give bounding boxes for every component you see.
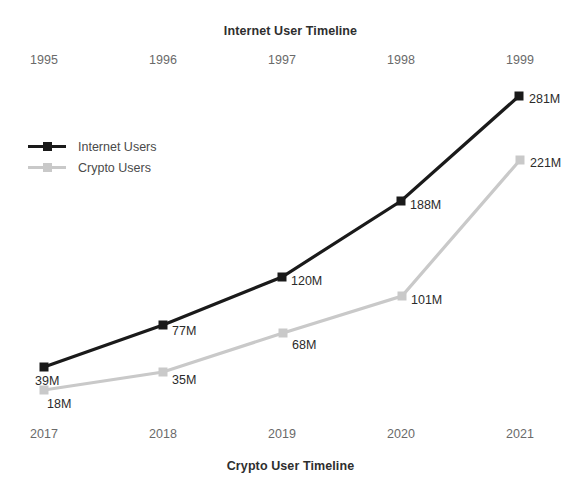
- chart-canvas: Internet User Timeline 1995 1996 1997 19…: [0, 0, 581, 490]
- data-label-internet-users: 188M: [410, 198, 441, 212]
- data-label-crypto-users: 101M: [411, 293, 442, 307]
- data-label-crypto-users: 221M: [530, 156, 561, 170]
- bottom-axis-tick: 2021: [506, 427, 534, 441]
- data-point-marker: [515, 92, 524, 101]
- chart-legend: Internet Users Crypto Users: [28, 136, 208, 178]
- data-point-marker: [397, 197, 406, 206]
- data-label-internet-users: 120M: [291, 274, 322, 288]
- data-label-internet-users: 39M: [35, 374, 59, 388]
- data-point-marker: [279, 329, 288, 338]
- legend-label: Crypto Users: [78, 161, 151, 175]
- data-point-marker: [278, 273, 287, 282]
- legend-swatch-icon: [28, 141, 66, 153]
- data-point-marker: [398, 292, 407, 301]
- data-label-crypto-users: 18M: [47, 397, 71, 411]
- legend-item-internet-users[interactable]: Internet Users: [28, 136, 208, 157]
- bottom-axis-tick: 2019: [268, 427, 296, 441]
- data-point-marker: [40, 363, 49, 372]
- data-point-marker: [159, 321, 168, 330]
- plot-area: [0, 0, 581, 490]
- legend-label: Internet Users: [78, 140, 157, 154]
- data-label-crypto-users: 68M: [292, 338, 316, 352]
- bottom-axis-tick: 2017: [30, 427, 58, 441]
- data-label-internet-users: 77M: [172, 324, 196, 338]
- data-point-marker: [516, 156, 525, 165]
- data-label-internet-users: 281M: [529, 92, 560, 106]
- data-point-marker: [159, 368, 168, 377]
- bottom-axis-tick-row: 2017 2018 2019 2020 2021: [0, 427, 581, 443]
- legend-swatch-icon: [28, 162, 66, 174]
- bottom-axis-tick: 2020: [387, 427, 415, 441]
- bottom-axis-title: Crypto User Timeline: [0, 459, 581, 473]
- bottom-axis-tick: 2018: [149, 427, 177, 441]
- data-label-crypto-users: 35M: [172, 373, 196, 387]
- legend-item-crypto-users[interactable]: Crypto Users: [28, 157, 208, 178]
